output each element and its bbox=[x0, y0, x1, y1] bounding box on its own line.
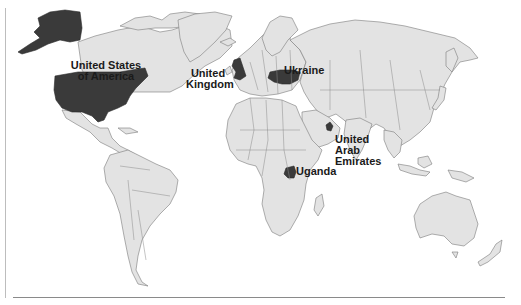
label-uae: United Arab Emirates bbox=[335, 134, 381, 167]
caribbean-islands bbox=[118, 128, 138, 134]
borneo bbox=[418, 156, 432, 168]
label-uganda: Uganda bbox=[296, 166, 336, 177]
new-zealand bbox=[478, 240, 502, 266]
bottom-rule bbox=[13, 297, 505, 298]
australia bbox=[414, 192, 478, 246]
alaska bbox=[18, 10, 82, 54]
label-usa-line-2: of America bbox=[68, 71, 144, 82]
label-ukraine-line-1: Ukraine bbox=[284, 65, 324, 76]
label-uk-line-2: Kingdom bbox=[186, 79, 230, 90]
tasmania bbox=[452, 252, 458, 258]
label-uk: United Kingdom bbox=[186, 68, 230, 90]
label-uganda-line-1: Uganda bbox=[296, 166, 336, 177]
south-america bbox=[104, 150, 178, 286]
label-ukraine: Ukraine bbox=[284, 65, 324, 76]
label-uae-line-3: Emirates bbox=[335, 156, 381, 167]
uganda bbox=[284, 166, 296, 178]
world-map bbox=[0, 0, 521, 305]
new-guinea bbox=[448, 170, 474, 182]
label-usa: United States of America bbox=[68, 60, 144, 82]
world-map-figure: United States of America United Kingdom … bbox=[0, 0, 521, 305]
madagascar bbox=[314, 194, 324, 216]
